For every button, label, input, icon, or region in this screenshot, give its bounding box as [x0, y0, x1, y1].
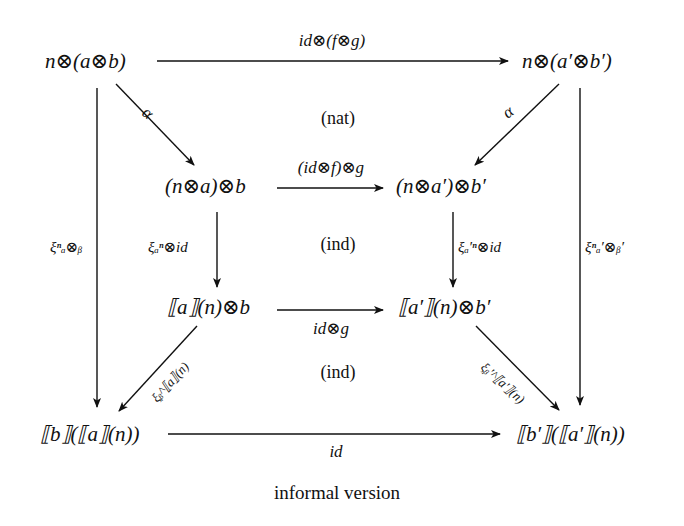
label-row3: id⊗g [313, 320, 349, 337]
node-row3-left: ⟦a⟧(n)⊗b [167, 297, 250, 318]
label-top: id⊗(f⊗g) [299, 32, 365, 49]
region-nat: (nat) [321, 109, 355, 127]
commutative-diagram: n⊗(a⊗b) n⊗(a′⊗b′) (n⊗a)⊗b (n⊗a′)⊗b′ ⟦a⟧(… [0, 0, 684, 526]
label-inner-left: ξₐⁿ⊗id [148, 240, 188, 255]
node-top-right: n⊗(a′⊗b′) [522, 51, 612, 72]
region-ind-upper: (ind) [321, 235, 356, 253]
region-ind-lower: (ind) [321, 363, 356, 381]
node-bottom-right: ⟦b′⟧(⟦a′⟧(n)) [516, 424, 625, 445]
node-mid-right: (n⊗a′)⊗b′ [396, 176, 486, 197]
node-top-left: n⊗(a⊗b) [45, 51, 126, 72]
diagram-caption: informal version [274, 483, 400, 502]
node-bottom-left: ⟦b⟧(⟦a⟧(n)) [40, 424, 139, 445]
arrow-alpha-left [116, 84, 194, 165]
arrow-alpha-right [475, 84, 559, 165]
label-mid: (id⊗f)⊗g [298, 159, 364, 176]
label-outer-right: ξⁿₐ′⊗ᵦ′ [585, 240, 624, 255]
label-outer-left: ξⁿₐ⊗ᵦ [50, 240, 82, 255]
label-inner-right: ξₐ′ⁿ⊗id [458, 240, 501, 255]
node-row3-right: ⟦a′⟧(n)⊗b′ [398, 297, 490, 318]
node-mid-left: (n⊗a)⊗b [165, 176, 246, 197]
label-bottom: id [329, 443, 342, 460]
